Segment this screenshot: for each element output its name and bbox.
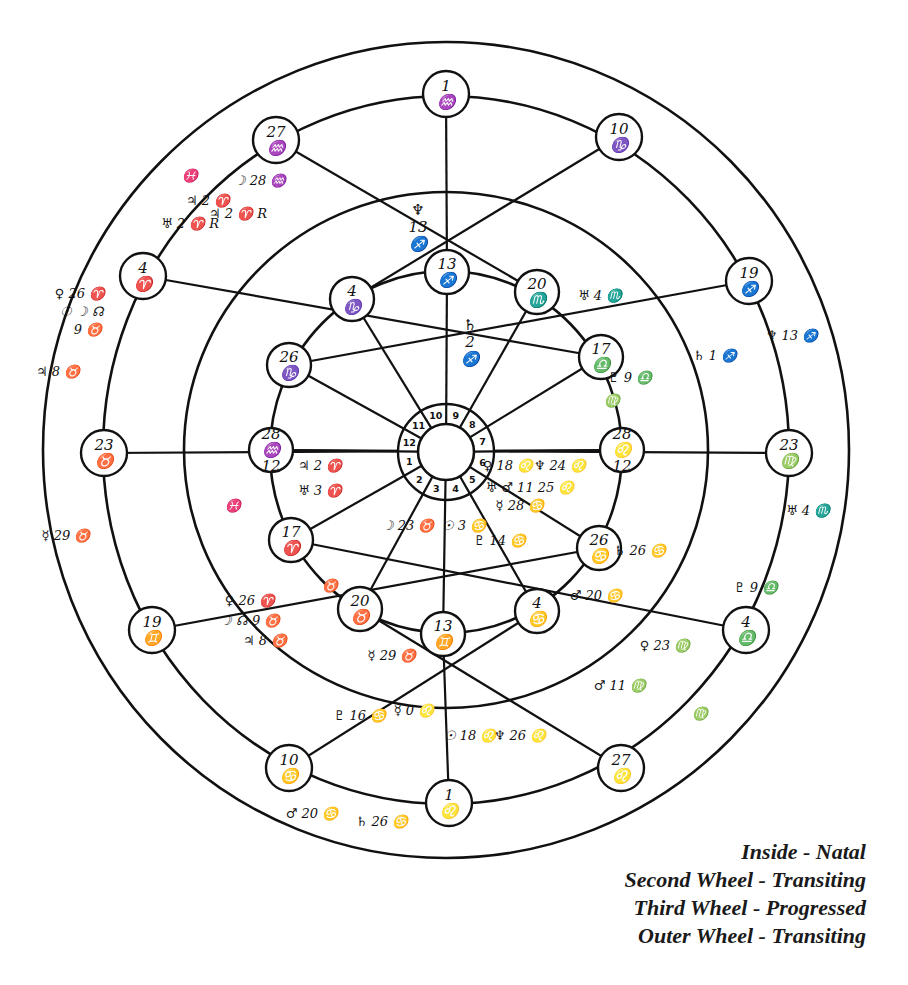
- second-wheel-planet: ☽ ☊ 9 ♉: [220, 613, 284, 628]
- cusp-line: [446, 94, 447, 272]
- progressed-planet: ♀ 23 ♍: [640, 638, 693, 653]
- second-wheel-planet: ♐: [409, 235, 431, 253]
- legend-second-wheel: Second Wheel - Transiting: [625, 866, 866, 894]
- progressed-planet: ♄ 1 ♐: [693, 348, 740, 363]
- cusp-marker: 4♈: [120, 253, 166, 299]
- progressed-planet: ♆ 26 ♌: [494, 728, 549, 743]
- second-wheel-planet: ♇ 9 ♎: [608, 370, 655, 385]
- natal-planet: ♄: [463, 316, 476, 334]
- second-wheel-planet: ♂ 20 ♋: [570, 588, 625, 603]
- cusp-marker: 26♑: [267, 343, 311, 387]
- cusp-line: [289, 611, 537, 768]
- house-number: 4: [452, 483, 459, 494]
- outer-transit-planet: ♃ 8 ♉: [36, 364, 83, 379]
- cusp-degree-sign: ♑: [610, 136, 632, 154]
- house-number: 1: [406, 456, 413, 467]
- cusp-marker: 1♒: [423, 71, 469, 117]
- cusp-degree-sign: ♒: [437, 93, 459, 111]
- cusp-marker: 17♈: [269, 518, 313, 562]
- outer-transit-planet: ♄ 26 ♋: [356, 814, 411, 829]
- second-wheel-planet: ♀ 26 ♈: [225, 593, 278, 608]
- house-number: 12: [403, 437, 416, 448]
- progressed-planet: ♓: [182, 168, 201, 183]
- outer-transit-planet: ♍: [692, 706, 711, 721]
- natal-planet: ☽ 23 ♉: [382, 518, 438, 533]
- cusp-marker: 28♒12: [249, 425, 293, 475]
- cusp-line: [276, 140, 537, 292]
- natal-planet: ♐: [461, 350, 483, 368]
- cusp-marker: 4♑: [330, 277, 374, 321]
- cusp-marker: 10♑: [596, 114, 642, 160]
- cusp-line: [360, 609, 621, 768]
- cusp-marker: 4♎: [723, 607, 769, 653]
- house-number: 10: [429, 410, 443, 421]
- cusp-marker: 19♊: [129, 607, 175, 653]
- second-wheel-planet: ♄ 26 ♋: [614, 543, 669, 558]
- outer-transit-planet: ♂ 20 ♋: [286, 806, 341, 821]
- house-number: 2: [416, 474, 423, 485]
- cusp-degree-sign: 12: [612, 457, 631, 475]
- progressed-planet: ♂ 11 ♍: [594, 678, 649, 693]
- progressed-planet: ♃ 2 ♈ R: [209, 206, 267, 221]
- cusp-degree-sign: ♈: [282, 539, 304, 557]
- cusp-degree-sign: ♊: [143, 629, 165, 647]
- cusp-degree-sign: ♈: [134, 275, 156, 293]
- house-number-hub: 101112123456789: [398, 404, 494, 500]
- outer-transit-planet: ♅ 4 ♏: [786, 503, 833, 518]
- natal-planet: ♇ 14 ♋: [474, 533, 529, 548]
- cusp-degree-sign: ♑: [280, 364, 302, 382]
- cusp-marker: 20♏: [515, 270, 559, 314]
- legend-inside: Inside - Natal: [625, 838, 866, 866]
- natal-planet: ♀ 18 ♌: [483, 458, 536, 473]
- outer-transit-planet: ☿ 29 ♉: [42, 528, 94, 543]
- cusp-degree-sign: ♒: [267, 139, 289, 157]
- cusp-marker: 13♊: [421, 612, 465, 656]
- natal-planet: 2: [464, 333, 475, 351]
- second-wheel-planet: ♅ 4 ♏: [578, 288, 625, 303]
- progressed-planet: ☉ 18 ♌: [444, 728, 500, 743]
- cusp-degree-sign: ♋: [590, 547, 612, 565]
- cusp-marker: 27♒: [253, 117, 299, 163]
- cusp-marker: 4♋: [515, 589, 559, 633]
- second-wheel-planet: ♉: [322, 578, 341, 593]
- cusp-marker: 1♌: [426, 780, 472, 826]
- cusp-degree-sign: ♉: [95, 452, 117, 470]
- cusp-marker: 28♌12: [600, 425, 644, 475]
- cusp-degree-sign: ♌: [612, 767, 634, 785]
- second-wheel-planet: ♆: [411, 201, 424, 219]
- cusp-degree-sign: ♏: [528, 291, 550, 309]
- second-wheel-planet: ♍: [604, 393, 623, 408]
- outer-transit-planet: 9 ♉: [74, 322, 105, 337]
- house-number: 7: [479, 436, 486, 447]
- cusp-marker: 23♉: [81, 430, 127, 476]
- legend-third-wheel: Third Wheel - Progressed: [625, 894, 866, 922]
- natal-planet: ☉ 3 ♋: [442, 518, 490, 533]
- cusp-marker: 20♉: [338, 587, 382, 631]
- house-number: 9: [453, 410, 460, 421]
- outer-transit-planet: ♀ 26 ♈: [55, 286, 108, 301]
- outer-transit-planet: ♆ 13 ♐: [766, 328, 821, 343]
- natal-planet: ♆ 24 ♌: [534, 458, 589, 473]
- house-number: 3: [433, 483, 440, 494]
- cusp-degree-sign: ♊: [434, 633, 456, 651]
- natal-planet: ♅ ♂ 11 25 ♌: [486, 480, 578, 495]
- outer-transit-planet: ♇ 9 ♎: [734, 580, 781, 595]
- house-number: 8: [469, 419, 476, 430]
- cusp-degree-sign: ♑: [343, 298, 365, 316]
- cusp-degree-sign: ♋: [528, 610, 550, 628]
- progressed-planet: ☽ 28 ♒: [234, 173, 290, 188]
- cusp-line: [443, 634, 449, 803]
- natal-planet: ☿ 28 ♋: [496, 498, 548, 513]
- natal-planet: ♃ 2 ♈: [298, 458, 345, 473]
- house-number: 5: [469, 474, 476, 485]
- cusp-degree-sign: ♌: [440, 802, 462, 820]
- house-number: 11: [412, 420, 425, 431]
- natal-planet: ♅ 3 ♈: [298, 483, 345, 498]
- cusp-degree-sign: ♐: [740, 280, 762, 298]
- cusp-degree-sign: ♎: [737, 629, 759, 647]
- outer-transit-planet: ☉ ☽ ☊: [60, 304, 105, 319]
- cusp-degree-sign: ♉: [351, 608, 373, 626]
- cusp-marker: 10♋: [266, 745, 312, 791]
- chart-legend: Inside - Natal Second Wheel - Transiting…: [625, 838, 866, 950]
- legend-outer-wheel: Outer Wheel - Transiting: [625, 922, 866, 950]
